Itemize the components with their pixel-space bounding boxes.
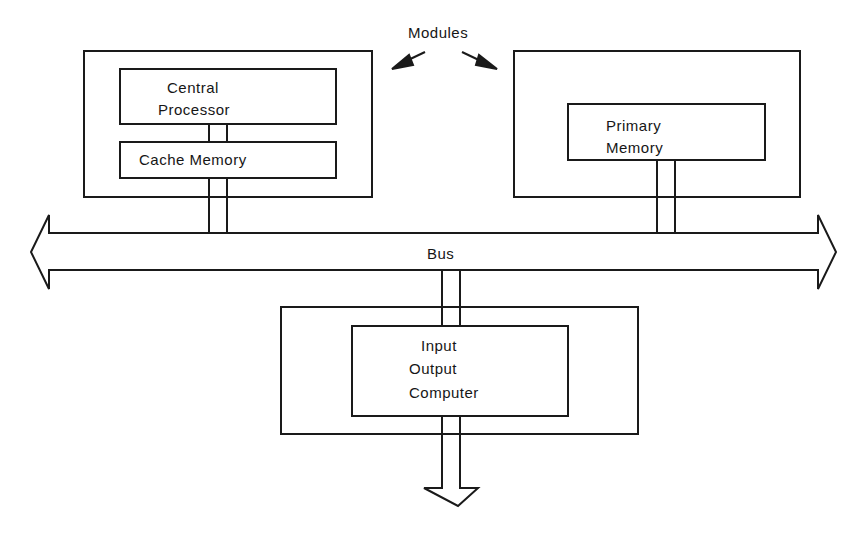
io-computer-label-line2: Output xyxy=(409,360,457,378)
io-computer-box xyxy=(352,326,568,416)
cpu-cache-connector xyxy=(209,124,227,142)
diagram-canvas xyxy=(0,0,868,534)
central-processor-label-line1: Central xyxy=(167,79,219,97)
cache-bus-connector xyxy=(209,178,227,233)
io-computer-label-line1: Input xyxy=(421,337,457,355)
modules-pointer-arrow-left xyxy=(392,52,425,69)
primary-memory-box xyxy=(568,104,765,160)
bus-io-connector xyxy=(442,270,460,326)
output-down-arrow xyxy=(424,416,478,506)
cache-memory-label: Cache Memory xyxy=(139,151,247,169)
primary-memory-label-line2: Memory xyxy=(606,139,663,157)
bus-label: Bus xyxy=(427,245,454,263)
modules-pointer-arrow-right xyxy=(462,52,497,69)
io-computer-label-line3: Computer xyxy=(409,384,479,402)
primary-memory-label-line1: Primary xyxy=(606,117,661,135)
modules-label: Modules xyxy=(408,24,468,42)
central-processor-label-line2: Processor xyxy=(158,101,230,119)
